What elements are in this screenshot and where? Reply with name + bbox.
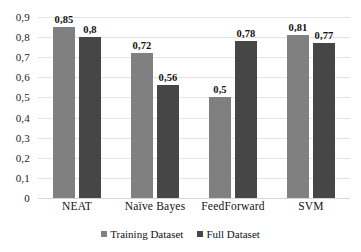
y-axis-tick-label: 0,6 — [16, 71, 30, 83]
y-axis-tick-label: 0,9 — [16, 11, 30, 23]
legend-item[interactable]: Full Dataset — [197, 228, 259, 240]
bar-slot: 0,78 — [235, 17, 257, 198]
bar-value-label: 0,81 — [289, 22, 308, 33]
y-axis-tick-label: 0,3 — [16, 132, 30, 144]
bar-value-label: 0,78 — [237, 28, 256, 39]
legend-label: Full Dataset — [206, 228, 259, 240]
plot-area: 0,850,80,720,560,50,780,810,77 — [38, 17, 350, 198]
x-axis: NEATNaïve BayesFeedForwardSVM — [38, 200, 350, 222]
bar[interactable] — [235, 41, 257, 198]
y-axis-tick-label: 0 — [24, 192, 30, 204]
bar-value-label: 0,8 — [83, 24, 96, 35]
bar-value-label: 0,77 — [315, 30, 334, 41]
y-axis-tick-label: 0,8 — [16, 31, 30, 43]
bar[interactable] — [131, 53, 153, 198]
x-axis-category-label: SVM — [277, 200, 345, 212]
bar-slot: 0,81 — [287, 17, 309, 198]
bar-value-label: 0,85 — [55, 14, 74, 25]
y-axis: 0,90,80,70,60,50,40,30,20,10 — [0, 17, 34, 198]
bar[interactable] — [209, 97, 231, 198]
y-axis-tick-label: 0,1 — [16, 172, 30, 184]
bar[interactable] — [157, 85, 179, 198]
square-marker-light-icon — [101, 231, 107, 237]
bar-group: 0,850,8 — [43, 17, 111, 198]
y-axis-tick-label: 0,4 — [16, 112, 30, 124]
square-marker-dark-icon — [197, 231, 203, 237]
bar-group: 0,810,77 — [277, 17, 345, 198]
x-axis-category-label: NEAT — [43, 200, 111, 212]
bar-value-label: 0,72 — [133, 40, 152, 51]
x-axis-category-label: FeedForward — [199, 200, 267, 212]
legend-label: Training Dataset — [110, 228, 183, 240]
bar[interactable] — [287, 35, 309, 198]
legend-item[interactable]: Training Dataset — [101, 228, 183, 240]
y-axis-tick-label: 0,7 — [16, 51, 30, 63]
bar-slot: 0,8 — [79, 17, 101, 198]
bar-slot: 0,77 — [313, 17, 335, 198]
bar-value-label: 0,56 — [159, 72, 178, 83]
bar-value-label: 0,5 — [213, 84, 226, 95]
y-axis-tick-label: 0,2 — [16, 152, 30, 164]
bar-slot: 0,85 — [53, 17, 75, 198]
x-axis-category-label: Naïve Bayes — [121, 200, 189, 212]
y-axis-tick-label: 0,5 — [16, 91, 30, 103]
bar-slot: 0,56 — [157, 17, 179, 198]
bar-chart: 0,90,80,70,60,50,40,30,20,10 0,850,80,72… — [0, 0, 361, 252]
bar[interactable] — [79, 37, 101, 198]
bar-groups: 0,850,80,720,560,50,780,810,77 — [38, 17, 350, 198]
bar[interactable] — [313, 43, 335, 198]
chart-legend: Training DatasetFull Dataset — [0, 228, 361, 240]
bar-group: 0,50,78 — [199, 17, 267, 198]
bar[interactable] — [53, 27, 75, 198]
bar-group: 0,720,56 — [121, 17, 189, 198]
bar-slot: 0,5 — [209, 17, 231, 198]
bar-slot: 0,72 — [131, 17, 153, 198]
gridline — [38, 198, 350, 199]
